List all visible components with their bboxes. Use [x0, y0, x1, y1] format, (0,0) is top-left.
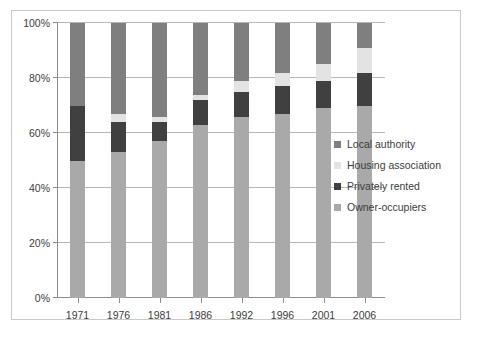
- bar-segment[interactable]: [152, 23, 168, 117]
- legend-label: Local authority: [347, 138, 415, 150]
- bar-stack: [111, 23, 127, 298]
- bar-segment[interactable]: [70, 161, 86, 299]
- bar-segment[interactable]: [357, 48, 373, 73]
- bar-segment[interactable]: [111, 122, 127, 152]
- legend-item[interactable]: Privately rented: [334, 180, 459, 192]
- bar-segment[interactable]: [357, 73, 373, 106]
- x-axis-tick: [365, 298, 366, 303]
- bar-segment[interactable]: [70, 106, 86, 161]
- bar-segment[interactable]: [234, 23, 250, 81]
- bar-segment[interactable]: [193, 100, 209, 125]
- bar-segment[interactable]: [357, 23, 373, 48]
- x-axis-label: 1981: [148, 309, 171, 321]
- bar-column[interactable]: [193, 23, 209, 298]
- bar-segment[interactable]: [275, 73, 291, 87]
- bar-segment[interactable]: [316, 64, 332, 81]
- bar-segment[interactable]: [234, 81, 250, 92]
- legend-swatch-icon: [334, 141, 341, 148]
- bar-column[interactable]: [70, 23, 86, 298]
- x-axis-tick: [78, 298, 79, 303]
- x-axis-label: 1986: [189, 309, 212, 321]
- x-axis-tick: [201, 298, 202, 303]
- legend-swatch-icon: [334, 204, 341, 211]
- bar-segment[interactable]: [275, 86, 291, 114]
- bar-stack: [234, 23, 250, 298]
- bar-segment[interactable]: [152, 122, 168, 141]
- x-axis-label: 1976: [107, 309, 130, 321]
- bar-segment[interactable]: [111, 114, 127, 122]
- bar-segment[interactable]: [152, 141, 168, 298]
- x-axis-tick: [242, 298, 243, 303]
- bar-segment[interactable]: [316, 81, 332, 109]
- legend-item[interactable]: Housing association: [334, 159, 459, 171]
- bar-stack: [70, 23, 86, 298]
- bar-segment[interactable]: [316, 23, 332, 64]
- y-axis-label: 60%: [29, 127, 50, 139]
- y-axis-label: 40%: [29, 182, 50, 194]
- bar-segment[interactable]: [316, 108, 332, 298]
- chart-legend: Local authorityHousing associationPrivat…: [334, 138, 459, 222]
- bar-column[interactable]: [275, 23, 291, 298]
- x-axis-label: 1992: [230, 309, 253, 321]
- bar-segment[interactable]: [275, 23, 291, 73]
- bar-column[interactable]: [234, 23, 250, 298]
- bar-segment[interactable]: [234, 92, 250, 117]
- bar-stack: [152, 23, 168, 298]
- bar-column[interactable]: [111, 23, 127, 298]
- x-axis-tick: [283, 298, 284, 303]
- x-axis-tick: [160, 298, 161, 303]
- legend-label: Housing association: [347, 159, 441, 171]
- bar-segment[interactable]: [70, 23, 86, 106]
- bar-stack: [275, 23, 291, 298]
- chart-frame: 0%20%40%60%80%100% 197119761981198619921…: [11, 10, 461, 320]
- y-axis-label: 80%: [29, 72, 50, 84]
- bar-segment[interactable]: [275, 114, 291, 298]
- legend-swatch-icon: [334, 183, 341, 190]
- x-axis-label: 1971: [66, 309, 89, 321]
- bar-segment[interactable]: [193, 95, 209, 101]
- legend-label: Privately rented: [347, 180, 420, 192]
- x-axis-tick: [324, 298, 325, 303]
- bar-segment[interactable]: [111, 152, 127, 298]
- legend-item[interactable]: Owner-occupiers: [334, 201, 459, 213]
- bar-stack: [316, 23, 332, 298]
- bar-stack: [193, 23, 209, 298]
- legend-swatch-icon: [334, 162, 341, 169]
- y-axis-label: 20%: [29, 237, 50, 249]
- bar-segment[interactable]: [234, 117, 250, 299]
- bar-column[interactable]: [152, 23, 168, 298]
- bar-column[interactable]: [316, 23, 332, 298]
- legend-item[interactable]: Local authority: [334, 138, 459, 150]
- y-axis-label: 100%: [23, 17, 50, 29]
- bar-segment[interactable]: [193, 23, 209, 95]
- bar-segment[interactable]: [111, 23, 127, 114]
- legend-label: Owner-occupiers: [347, 201, 426, 213]
- x-axis-label: 2001: [312, 309, 335, 321]
- x-axis-tick: [119, 298, 120, 303]
- x-axis-label: 2006: [353, 309, 376, 321]
- bar-segment[interactable]: [193, 125, 209, 298]
- x-axis-label: 1996: [271, 309, 294, 321]
- y-axis-label: 0%: [35, 292, 50, 304]
- bar-segment[interactable]: [152, 117, 168, 123]
